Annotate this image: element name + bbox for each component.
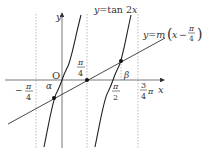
tan-curve-label: y=tan 2x	[93, 4, 138, 15]
point-alpha	[52, 96, 56, 100]
tick-3pi-4-den: 4	[141, 92, 146, 101]
tick-neg-pi-4-den: 4	[26, 93, 31, 102]
tick-3pi-4-pi: π	[147, 87, 154, 96]
line-label-paren-close: )	[197, 26, 202, 42]
tick-pi-2-den: 2	[113, 93, 118, 102]
point-pi-4	[85, 78, 89, 82]
tick-pi-4-num: π	[77, 58, 84, 67]
tick-3pi-4-num: 3	[141, 81, 146, 90]
point-beta	[119, 59, 123, 63]
origin-label: O	[52, 70, 60, 81]
tick-pi-2-num: π	[112, 82, 119, 91]
alpha-label: α	[46, 81, 52, 91]
line-label-minus: −	[179, 29, 187, 40]
tan-graph-diagram: y x O α β − π 4 π 4 π 2 3 4 π y=tan 2x y…	[0, 0, 210, 152]
tick-neg-pi-4-minus: −	[15, 85, 23, 95]
beta-label: β	[123, 70, 129, 80]
tan-curve-branch-2	[95, 15, 131, 147]
line-label-x: x	[172, 29, 178, 40]
tick-neg-pi-4-num: π	[25, 82, 32, 91]
y-axis-label: y	[55, 11, 62, 22]
x-axis-label: x	[158, 84, 164, 95]
line-label-pi: π	[188, 24, 195, 33]
tick-pi-4-den: 4	[78, 69, 83, 78]
line-label: y=m	[142, 29, 165, 40]
line-label-4: 4	[189, 34, 194, 43]
